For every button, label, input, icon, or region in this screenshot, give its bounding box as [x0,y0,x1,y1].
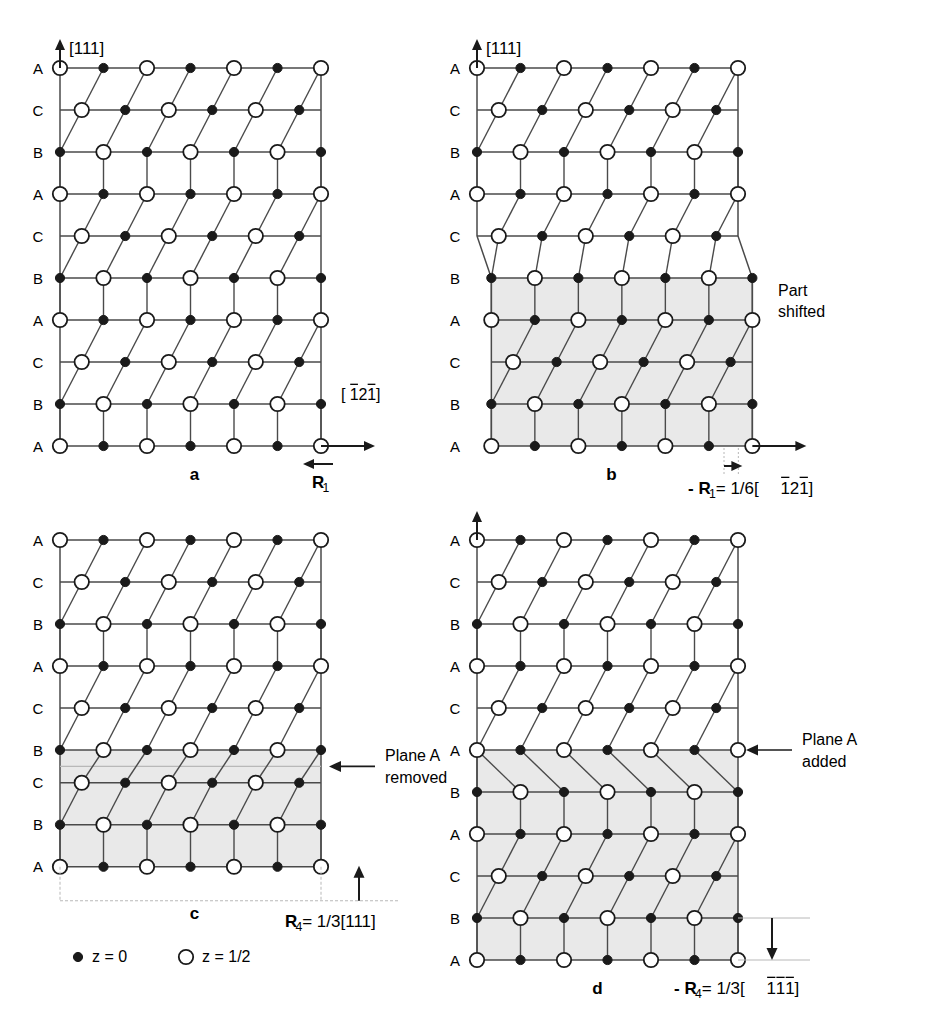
atom-filled-z-zero [646,147,655,156]
atom-filled-z-zero [603,661,612,670]
atom-filled-z-zero [273,315,282,324]
atom-open-z-half [314,533,328,547]
atom-open-z-half [270,271,284,285]
stacking-label-B: B [450,270,460,287]
atom-filled-z-zero [99,315,108,324]
atom-open-z-half [644,659,658,673]
atom-filled-z-zero [55,820,64,829]
atom-open-z-half [314,187,328,201]
atom-open-z-half [615,397,629,411]
atom-open-z-half [658,439,672,453]
atom-open-z-half [249,701,263,715]
panel-border-left [477,68,491,446]
atom-filled-z-zero [186,441,195,450]
axis-111-arrowhead [472,511,482,522]
text-run: 1 [799,479,808,498]
note-arrow-head-removed [329,761,341,772]
atom-filled-z-zero [690,535,699,544]
atom-filled-z-zero [538,231,547,240]
atom-open-z-half [731,827,745,841]
stacking-label-C: C [33,700,44,717]
atom-filled-z-zero [661,273,670,282]
atom-filled-z-zero [748,399,757,408]
atom-open-z-half [140,61,154,75]
atom-open-z-half [162,701,176,715]
atom-filled-z-zero [661,399,670,408]
atom-open-z-half [470,827,484,841]
atom-filled-z-zero [704,441,713,450]
atom-filled-z-zero [472,913,481,922]
atom-open-z-half [96,743,110,757]
atom-filled-z-zero [186,315,195,324]
atom-open-z-half [162,229,176,243]
atom-open-z-half [249,229,263,243]
atom-open-z-half [470,953,484,967]
atom-filled-z-zero [472,787,481,796]
atom-filled-z-zero [142,399,151,408]
atom-open-z-half [140,313,154,327]
atom-filled-z-zero [690,955,699,964]
atom-open-z-half [658,313,672,327]
stacking-label-A: A [450,312,460,329]
atom-filled-z-zero [690,745,699,754]
atom-open-z-half [731,533,745,547]
atom-filled-z-zero [487,399,496,408]
atom-filled-z-zero [208,778,217,787]
stacking-label-A: A [450,742,460,759]
atom-filled-z-zero [516,661,525,670]
atom-filled-z-zero [690,661,699,670]
stacking-label-A: A [450,532,460,549]
atom-filled-z-zero [229,147,238,156]
atom-open-z-half [579,575,593,589]
atom-filled-z-zero [625,105,634,114]
stacking-label-A: A [33,532,43,549]
text-run: = 1/6[ [716,479,759,498]
bond-line [695,708,717,750]
atom-open-z-half [513,145,527,159]
note-part-shifted-line2: shifted [778,303,825,320]
atom-open-z-half [183,271,197,285]
atom-open-z-half [600,145,614,159]
note-plane-a-removed-line1: Plane A [385,747,440,764]
atom-open-z-half [227,187,241,201]
stacking-label-C: C [450,700,461,717]
atom-filled-z-zero [121,357,130,366]
atom-filled-z-zero [516,189,525,198]
text-run: ] [808,479,813,498]
atom-open-z-half [557,61,571,75]
atom-open-z-half [557,743,571,757]
atom-filled-z-zero [530,441,539,450]
atom-filled-z-zero [99,862,108,871]
atom-filled-z-zero [229,273,238,282]
stacking-label-A: A [33,60,43,77]
atom-filled-z-zero [229,619,238,628]
atom-filled-z-zero [639,357,648,366]
atom-open-z-half [579,229,593,243]
atom-filled-z-zero [121,778,130,787]
atom-filled-z-zero [538,703,547,712]
atom-filled-z-zero [142,745,151,754]
atom-open-z-half [96,271,110,285]
atom-open-z-half [162,575,176,589]
atom-open-z-half [666,103,680,117]
atom-filled-z-zero [603,955,612,964]
vector-R1-label: R1 [312,473,330,495]
atom-filled-z-zero [55,619,64,628]
atom-open-z-half [270,617,284,631]
atom-open-z-half [162,776,176,790]
atom-filled-z-zero [295,105,304,114]
atom-filled-z-zero [487,273,496,282]
stacking-label-B: B [33,742,43,759]
atom-open-z-half [140,860,154,874]
atom-filled-z-zero [121,105,130,114]
atom-filled-z-zero [603,535,612,544]
atom-open-z-half [270,743,284,757]
atom-filled-z-zero [530,315,539,324]
text-run: 2 [358,386,367,403]
stacking-label-A: A [450,952,460,969]
atom-filled-z-zero [121,577,130,586]
atom-open-z-half [687,145,701,159]
atom-open-z-half [528,397,542,411]
atom-filled-z-zero [538,871,547,880]
atom-filled-z-zero [712,105,721,114]
